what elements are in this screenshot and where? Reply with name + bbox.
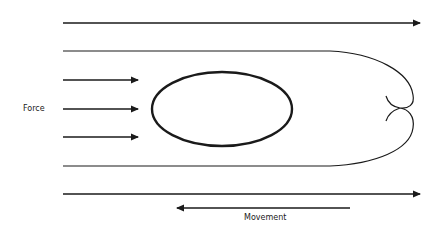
force-label: Force	[23, 104, 45, 113]
movement-label: Movement	[244, 213, 286, 222]
obstacle-ellipse	[152, 72, 292, 146]
flow-diagram	[0, 0, 442, 233]
